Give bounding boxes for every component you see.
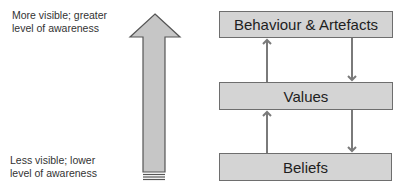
box-behaviour-artefacts-label: Behaviour & Artefacts xyxy=(234,16,378,33)
box-values-label: Values xyxy=(284,88,329,105)
box-beliefs-label: Beliefs xyxy=(283,159,328,176)
box-behaviour-artefacts: Behaviour & Artefacts xyxy=(219,11,393,38)
box-beliefs: Beliefs xyxy=(219,153,392,181)
box-values: Values xyxy=(219,82,393,110)
big-arrow-up-icon xyxy=(130,14,180,180)
